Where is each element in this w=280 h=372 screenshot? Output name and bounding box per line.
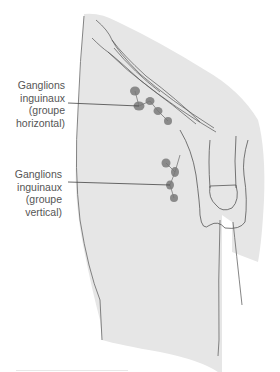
label-line: Ganglions bbox=[16, 79, 65, 92]
label-vertical-group: Ganglions inguinaux (groupe vertical) bbox=[15, 168, 62, 218]
label-line: Ganglions bbox=[15, 168, 62, 181]
label-line: (groupe bbox=[16, 104, 65, 117]
bottom-rule bbox=[16, 370, 128, 371]
label-line: horizontal) bbox=[16, 117, 65, 130]
label-line: (groupe bbox=[15, 193, 62, 206]
label-line: inguinaux bbox=[15, 181, 62, 194]
label-line: vertical) bbox=[15, 206, 62, 219]
body-silhouette bbox=[76, 14, 265, 372]
label-horizontal-group: Ganglions inguinaux (groupe horizontal) bbox=[16, 79, 65, 129]
label-line: inguinaux bbox=[16, 92, 65, 105]
